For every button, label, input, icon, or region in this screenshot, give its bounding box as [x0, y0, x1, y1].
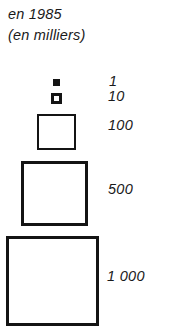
legend-value-label-100: 100: [108, 117, 133, 133]
legend-subtitle-units: (en milliers): [8, 27, 86, 43]
legend-value-label-10: 10: [108, 88, 125, 104]
legend-symbol-square-10: [51, 93, 62, 104]
legend-symbol-square-1: [53, 79, 60, 86]
legend-symbol-square-500: [21, 161, 88, 226]
legend-value-label-1000: 1 000: [107, 268, 145, 284]
legend-value-label-500: 500: [108, 181, 133, 197]
legend-symbol-square-100: [37, 114, 76, 150]
legend-value-label-1: 1: [109, 73, 117, 89]
legend-title-year: en 1985: [8, 6, 62, 22]
legend-symbol-square-1000: [6, 236, 99, 326]
